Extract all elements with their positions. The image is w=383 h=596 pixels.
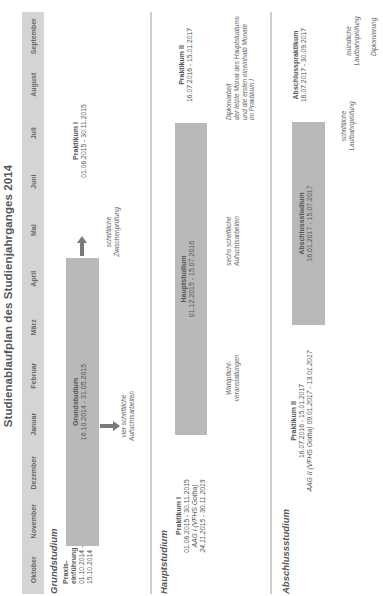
bar-dates: 01.12.2015 - 15.07.2016 bbox=[188, 241, 195, 317]
month-label: November bbox=[22, 497, 44, 546]
arrow-icon bbox=[80, 242, 84, 256]
bar-title: Abschlussstudium bbox=[298, 122, 306, 325]
bar-dates: 16.01.2017 - 15.07.2017 bbox=[306, 185, 313, 261]
study-plan-diagram: Studienablaufplan des Studienjahrganges … bbox=[0, 0, 383, 596]
abschlusspraktikum-label: Abschlusspraktikum 16.07.2017 - 30.09.20… bbox=[292, 10, 308, 120]
note-diplomarbeit: Diplomarbeit der letzte Monat des Haupts… bbox=[225, 0, 256, 120]
section-label-hauptstudium: Hauptstudium bbox=[158, 530, 169, 594]
praktikum1-label: Praktikum I 01.06.2015 - 30.11.2015 bbox=[72, 86, 88, 196]
month-label: Juni bbox=[22, 158, 44, 207]
note-zwischenpruefung: schriftliche Zwischenprüfung bbox=[105, 192, 121, 272]
grundstudium-bar: Grundstudium 16.10.2014 - 31.05.2015 bbox=[66, 258, 99, 546]
note-diplomierung: Diplomierung bbox=[370, 18, 378, 56]
arrow-icon bbox=[100, 424, 114, 428]
month-label: Januar bbox=[22, 400, 44, 449]
note-wahlpflicht: Wahlpflicht- veranstaltungen bbox=[225, 338, 241, 418]
section-label-abschlussstudium: Abschlussstudium bbox=[280, 509, 291, 594]
bar-title: Grundstudium bbox=[72, 258, 80, 546]
bar-title: Hauptstudium bbox=[180, 123, 188, 435]
bar-dates: 16.10.2014 - 31.05.2015 bbox=[80, 364, 87, 440]
praktikum2-aag: Praktikum II 16.07.2016 - 15.01.2017 AAG… bbox=[290, 326, 314, 516]
note-schriftliche-laufbahnpruefung: schriftliche Laufbahnprüfung bbox=[340, 86, 356, 166]
month-label: April bbox=[22, 255, 44, 304]
abschlussstudium-bar: Abschlussstudium 16.01.2017 - 15.07.2017 bbox=[292, 122, 325, 325]
section-divider bbox=[150, 12, 152, 594]
note-muendliche-laufbahnpruefung: mündliche Laufbahnprüfung bbox=[345, 6, 361, 76]
month-label: Februar bbox=[22, 352, 44, 401]
month-header: Oktober November Dezember Januar Februar… bbox=[22, 12, 44, 594]
praktikum1-aag: Praktikum I 01.06.2015 - 30.11.2015 AAG … bbox=[175, 456, 206, 576]
section-label-grundstudium: Grundstudium bbox=[48, 529, 59, 594]
note-vier-arbeiten: vier schriftliche Aufsichtsarbeiten bbox=[120, 376, 136, 456]
month-label: Juli bbox=[22, 109, 44, 158]
praktikum2-label: Praktikum II 16.07.2016 - 15.01.2017 bbox=[178, 10, 194, 120]
month-label: Oktober bbox=[22, 546, 44, 595]
month-label: August bbox=[22, 61, 44, 110]
month-label: September bbox=[22, 12, 44, 61]
note-sechs-arbeiten: sechs schriftliche Aufsichtsarbeiten bbox=[225, 196, 241, 286]
month-label: März bbox=[22, 303, 44, 352]
diagram-title: Studienablaufplan des Studienjahrganges … bbox=[2, 136, 14, 456]
hauptstudium-bar: Hauptstudium 01.12.2015 - 15.07.2016 bbox=[175, 123, 207, 435]
month-label: Dezember bbox=[22, 449, 44, 498]
month-label: Mai bbox=[22, 206, 44, 255]
section-divider bbox=[270, 12, 272, 594]
